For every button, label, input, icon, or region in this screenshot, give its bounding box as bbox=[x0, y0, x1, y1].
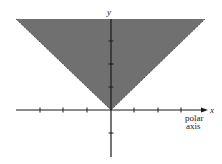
x-axis-arrow-icon bbox=[201, 108, 208, 113]
y-axis-label: y bbox=[106, 7, 111, 17]
x-axis-label: x bbox=[209, 105, 214, 115]
polar-axis-label-line2: axis bbox=[186, 121, 201, 131]
polar-region-diagram: y x polar axis bbox=[0, 0, 222, 164]
